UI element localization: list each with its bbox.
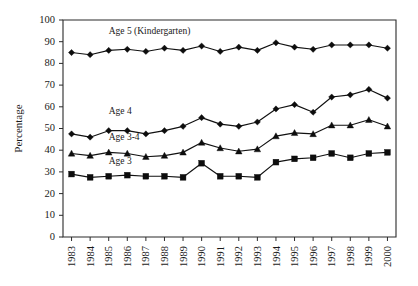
data-point bbox=[87, 52, 93, 58]
data-point bbox=[310, 155, 316, 161]
data-point bbox=[384, 95, 390, 101]
x-tick-label: 1987 bbox=[140, 246, 151, 267]
x-tick-label: 1985 bbox=[103, 246, 114, 267]
y-tick-label: 30 bbox=[45, 166, 56, 177]
data-point bbox=[254, 47, 260, 53]
data-point bbox=[106, 173, 112, 179]
series-label: Age 5 (Kindergarten) bbox=[109, 26, 191, 37]
data-point bbox=[198, 139, 205, 145]
plot-border bbox=[63, 20, 396, 237]
data-point bbox=[180, 174, 186, 180]
x-tick-label: 1983 bbox=[66, 246, 77, 267]
y-axis-tick-labels: 0102030405060708090100 bbox=[39, 14, 63, 242]
data-point bbox=[273, 159, 279, 165]
y-axis-title: Percentage bbox=[12, 104, 24, 152]
x-tick-label: 1991 bbox=[215, 246, 226, 267]
data-point bbox=[68, 131, 74, 137]
data-point bbox=[236, 173, 242, 179]
y-tick-label: 50 bbox=[45, 122, 56, 133]
x-tick-label: 1997 bbox=[326, 246, 337, 267]
data-point bbox=[180, 47, 186, 53]
data-point bbox=[124, 172, 130, 178]
series-label: Age 3 bbox=[109, 156, 132, 166]
y-tick-label: 20 bbox=[45, 188, 56, 199]
data-point bbox=[217, 48, 223, 54]
data-point bbox=[87, 174, 93, 180]
data-point bbox=[106, 47, 112, 53]
x-tick-label: 2000 bbox=[382, 246, 393, 267]
x-tick-label: 1993 bbox=[252, 246, 263, 267]
y-tick-label: 70 bbox=[45, 79, 56, 90]
x-tick-label: 1988 bbox=[159, 246, 170, 267]
y-axis-title-text: Percentage bbox=[12, 104, 24, 152]
data-point bbox=[291, 102, 297, 108]
data-point bbox=[329, 151, 335, 157]
y-tick-label: 80 bbox=[45, 57, 56, 68]
data-point bbox=[143, 131, 149, 137]
data-point bbox=[143, 48, 149, 54]
x-axis-tick-labels: 1983198419851986198719881989199019911992… bbox=[66, 237, 393, 267]
data-point bbox=[162, 173, 168, 179]
data-point bbox=[310, 46, 316, 52]
x-tick-label: 1990 bbox=[196, 246, 207, 267]
data-point bbox=[254, 174, 260, 180]
data-point bbox=[69, 171, 75, 177]
data-point bbox=[366, 42, 372, 48]
data-point bbox=[366, 117, 373, 123]
data-point bbox=[384, 45, 390, 51]
data-point bbox=[124, 46, 130, 52]
y-tick-label: 40 bbox=[45, 144, 56, 155]
y-tick-label: 0 bbox=[50, 231, 55, 242]
series-age-5-kindergarten bbox=[68, 40, 390, 58]
y-tick-label: 60 bbox=[45, 101, 56, 112]
data-point bbox=[199, 43, 205, 49]
data-point bbox=[161, 128, 167, 134]
data-point bbox=[217, 173, 223, 179]
data-point bbox=[180, 123, 186, 129]
x-tick-label: 1989 bbox=[178, 246, 189, 267]
data-point bbox=[68, 49, 74, 55]
x-tick-label: 1998 bbox=[345, 246, 356, 267]
series-line bbox=[72, 43, 388, 55]
data-point bbox=[87, 134, 93, 140]
data-point bbox=[347, 92, 353, 98]
data-point bbox=[366, 151, 372, 157]
x-tick-label: 1999 bbox=[363, 246, 374, 267]
series-label: Age 3-4 bbox=[109, 132, 140, 142]
series-annotations: Age 5 (Kindergarten)Age 4Age 3-4Age 3 bbox=[109, 26, 191, 166]
series-label: Age 4 bbox=[109, 106, 132, 116]
data-point bbox=[217, 121, 223, 127]
x-tick-label: 1992 bbox=[233, 246, 244, 267]
data-point bbox=[143, 173, 149, 179]
data-point bbox=[291, 44, 297, 50]
data-point bbox=[236, 44, 242, 50]
chart-container: Percentage 0102030405060708090100 198319… bbox=[0, 0, 418, 286]
data-point bbox=[199, 160, 205, 166]
data-point bbox=[347, 42, 353, 48]
x-tick-label: 1996 bbox=[308, 246, 319, 267]
x-tick-label: 1995 bbox=[289, 246, 300, 267]
data-point bbox=[347, 155, 353, 161]
x-tick-label: 1984 bbox=[85, 245, 96, 267]
y-tick-label: 10 bbox=[45, 209, 56, 220]
data-point bbox=[161, 45, 167, 51]
data-point bbox=[292, 156, 298, 162]
data-point bbox=[236, 123, 242, 129]
x-tick-label: 1986 bbox=[122, 246, 133, 267]
y-tick-label: 90 bbox=[45, 36, 56, 47]
data-point bbox=[385, 149, 391, 155]
data-point bbox=[180, 149, 187, 155]
data-point bbox=[273, 40, 279, 46]
data-point bbox=[366, 86, 372, 92]
data-point bbox=[199, 115, 205, 121]
data-point bbox=[329, 42, 335, 48]
line-chart: Percentage 0102030405060708090100 198319… bbox=[0, 0, 418, 286]
x-tick-label: 1994 bbox=[271, 245, 282, 267]
y-tick-label: 100 bbox=[39, 14, 55, 25]
axis-frame bbox=[63, 20, 396, 237]
